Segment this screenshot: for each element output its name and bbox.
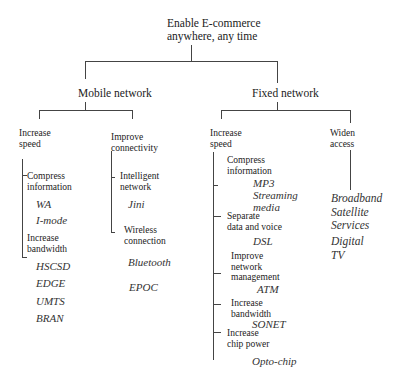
example-mp3: MP3 [253,177,298,189]
example-tv: TV [331,249,364,263]
label-line: data and voice [227,222,282,233]
connector [221,110,351,111]
connector [85,61,86,79]
example-streaming: Streaming [253,189,298,201]
label-line: Compress [227,155,272,166]
label-line: Intelligent [120,171,159,182]
example-umts: UMTS [36,295,65,308]
mobile-network-node: Mobile network [78,87,152,100]
connector [213,304,221,305]
connector [85,61,278,62]
connector [22,159,23,258]
label-line: management [231,272,280,283]
connector [221,110,222,119]
label-line: connectivity [111,143,158,154]
label-line: access [330,139,355,150]
label-line: Separate [227,211,282,222]
example-satellite: Satellite [331,206,382,220]
label-line: network [231,262,280,273]
example-wa: WA [36,198,51,211]
fixed-network-node: Fixed network [252,87,319,100]
label-line: speed [210,139,242,150]
example-mp3-streaming-media: MP3 Streaming media [253,177,298,213]
fixed-increase-bandwidth: Increase bandwidth [231,298,271,319]
connector [277,61,278,83]
label-line: Increase [231,298,271,309]
connector [213,332,221,333]
connector [39,110,40,119]
label-line: Improve [111,132,158,143]
fixed-compress-information: Compress information [227,155,272,176]
fixed-improve-network-management: Improve network management [231,251,280,283]
mobile-intelligent-network: Intelligent network [120,171,159,192]
example-jini: Jini [128,198,145,211]
example-digital: Digital [331,235,364,249]
example-hscsd: HSCSD [36,260,70,273]
connector [213,273,221,274]
example-broadband-satellite-services: Broadband Satellite Services [331,192,382,233]
label-line: information [27,182,72,193]
label-line: network [120,182,159,193]
label-line: Increase [19,128,51,139]
mobile-wireless-connection: Wireless connection [124,225,166,246]
fixed-increase-speed: Increase speed [210,128,242,149]
example-atm: ATM [257,283,279,296]
example-opto-chip: Opto-chip [252,355,297,368]
connector [350,110,351,123]
example-bran: BRAN [36,312,64,325]
connector [22,257,27,258]
example-digital-tv: Digital TV [331,235,364,262]
root-line2: anywhere, any time [167,30,247,43]
label-line: Improve [231,251,280,262]
root-line1: Enable E-commerce [167,17,247,30]
fixed-separate-data-voice: Separate data and voice [227,211,282,232]
label-line: Compress [27,171,72,182]
label-line: Widen [330,128,355,139]
connector [213,152,214,360]
example-bluetooth: Bluetooth [128,256,171,269]
fixed-widen-access: Widen access [330,128,355,149]
label-line: speed [19,139,51,150]
label-line: connection [124,236,166,247]
connector [213,216,221,217]
connector [191,45,192,62]
mobile-improve-connectivity: Improve connectivity [111,132,158,153]
example-services: Services [331,219,382,233]
root-goal: Enable E-commerce anywhere, any time [167,17,247,43]
example-epoc: EPOC [129,281,158,294]
example-dsl: DSL [253,235,273,248]
label-line: Wireless [124,225,166,236]
label-line: information [227,166,272,177]
fixed-increase-chip-power: Increase chip power [227,328,269,349]
label-line: Increase [210,128,242,139]
mobile-compress-information: Compress information [27,171,72,192]
label-line: chip power [227,339,269,350]
connector [132,110,133,119]
connector [350,150,351,190]
connector [111,151,112,233]
mobile-increase-bandwidth: Increase bandwidth [27,233,67,254]
example-edge: EDGE [36,277,65,290]
example-i-mode: I-mode [36,214,67,227]
connector [213,185,218,186]
connector [39,110,133,111]
mobile-increase-speed: Increase speed [19,128,51,149]
label-line: bandwidth [27,244,67,255]
label-line: Increase [27,233,67,244]
label-line: Increase [227,328,269,339]
connector [111,177,115,178]
example-broadband: Broadband [331,192,382,206]
connector [111,232,115,233]
